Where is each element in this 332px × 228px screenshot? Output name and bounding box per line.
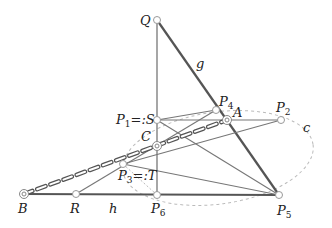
label-q: Q	[140, 13, 151, 28]
point-p6[interactable]	[154, 192, 161, 199]
label-r: R	[69, 201, 80, 216]
point-c[interactable]	[153, 142, 162, 151]
label-c: C	[141, 129, 151, 144]
label-p6: P6	[150, 201, 166, 218]
label-h: h	[109, 201, 117, 216]
point-p2[interactable]	[278, 117, 285, 124]
point-p5[interactable]	[276, 192, 283, 199]
geometry-diagram: Q g P1=:S P4 A P2 c C P3=:T B R h P6 P5	[0, 0, 332, 228]
label-a: A	[232, 105, 242, 120]
point-b[interactable]	[20, 190, 29, 199]
point-p3[interactable]	[120, 161, 127, 168]
line-h	[24, 194, 279, 195]
point-r[interactable]	[73, 191, 80, 198]
point-q[interactable]	[154, 17, 161, 24]
label-c-conic: c	[303, 120, 311, 135]
line-s-p5	[157, 120, 279, 195]
label-p1: P1=:S	[115, 112, 155, 129]
label-p2: P2	[275, 100, 290, 117]
label-g: g	[196, 56, 204, 71]
label-p5: P5	[276, 203, 292, 220]
label-p3: P3=:T	[117, 168, 158, 185]
label-p4: P4	[218, 94, 234, 111]
point-a[interactable]	[223, 116, 232, 125]
label-b: B	[17, 201, 28, 216]
